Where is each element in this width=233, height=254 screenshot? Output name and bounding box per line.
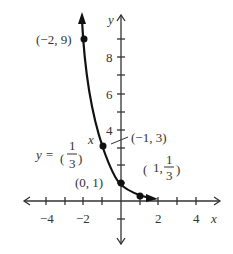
point-label: (−2, 9) bbox=[36, 32, 72, 47]
svg-text:1,: 1, bbox=[153, 160, 163, 175]
y-tick-label: 6 bbox=[106, 87, 113, 102]
x-axis-label: x bbox=[210, 211, 217, 226]
svg-text:(: ( bbox=[143, 162, 147, 177]
svg-text:): ) bbox=[176, 162, 180, 177]
point-label: (−1, 3) bbox=[131, 130, 167, 145]
svg-text:x: x bbox=[87, 132, 94, 147]
curve-arrow-up-icon bbox=[78, 12, 86, 24]
x-tick-label: −2 bbox=[76, 211, 90, 226]
x-tick-label: 4 bbox=[193, 211, 200, 226]
svg-text:(: ( bbox=[60, 151, 64, 166]
point-label-1-third: ( 1, 1 3 ) bbox=[143, 152, 180, 183]
y-tick-label: 8 bbox=[106, 50, 113, 65]
x-axis bbox=[24, 197, 220, 205]
svg-text:y =: y = bbox=[34, 147, 54, 162]
point-1-third bbox=[137, 193, 144, 200]
x-tick-label: 2 bbox=[155, 211, 162, 226]
point-0-1 bbox=[118, 180, 125, 187]
function-label: y = ( 1 3 ) x bbox=[34, 132, 94, 171]
svg-text:): ) bbox=[78, 151, 82, 166]
x-tick-label: −4 bbox=[40, 211, 54, 226]
point-neg2-9 bbox=[81, 36, 88, 43]
svg-text:1: 1 bbox=[69, 138, 76, 153]
y-tick-label: 4 bbox=[106, 123, 113, 138]
point-neg1-3 bbox=[100, 143, 107, 150]
svg-text:3: 3 bbox=[166, 168, 173, 183]
svg-text:1: 1 bbox=[166, 152, 173, 167]
point-label: (0, 1) bbox=[75, 175, 103, 190]
y-axis-label: y bbox=[106, 12, 114, 27]
exponential-graph: −4 −2 2 4 x 8 6 4 y (−2, 9) (−1, 3) (0, … bbox=[0, 0, 233, 254]
exponential-curve bbox=[82, 20, 150, 198]
y-axis bbox=[117, 15, 125, 244]
svg-text:3: 3 bbox=[69, 156, 76, 171]
